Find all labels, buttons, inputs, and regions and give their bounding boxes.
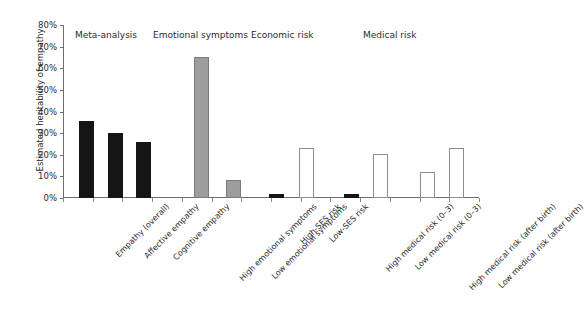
y-tick-label: 50% (38, 85, 57, 95)
bar (344, 194, 359, 198)
y-tick-label: 30% (38, 128, 57, 138)
y-tick (60, 155, 64, 156)
y-tick (60, 176, 64, 177)
y-tick (60, 68, 64, 69)
y-axis-title: Estimated heritability of empathy (35, 0, 45, 200)
bar (108, 133, 123, 198)
y-tick-label: 0% (44, 193, 58, 203)
bar (269, 194, 284, 198)
bar (373, 154, 388, 198)
y-tick-label: 60% (38, 63, 57, 73)
bar (449, 148, 464, 198)
y-tick-label: 70% (38, 42, 57, 52)
y-tick (60, 47, 64, 48)
group-header: Medical risk (363, 30, 416, 40)
plot-area: 0%10%20%30%40%50%60%70%80% (63, 25, 479, 198)
bar (79, 121, 94, 198)
bar (299, 148, 314, 198)
y-tick-label: 10% (38, 171, 57, 181)
bar (136, 142, 151, 198)
y-tick-label: 80% (38, 20, 57, 30)
group-header: Economic risk (251, 30, 314, 40)
group-header: Emotional symptoms (153, 30, 248, 40)
group-header: Meta-analysis (75, 30, 137, 40)
bar (420, 172, 435, 198)
bar (194, 57, 209, 198)
y-tick (60, 133, 64, 134)
y-tick (60, 25, 64, 26)
x-axis-label: Affective empathy (143, 202, 201, 260)
y-tick-label: 40% (38, 107, 57, 117)
bar (226, 180, 241, 198)
x-axis-label: Empathy (overall) (114, 202, 171, 259)
x-axis-label: Cognitive empathy (171, 202, 231, 262)
x-tick (479, 198, 480, 202)
y-tick (60, 112, 64, 113)
x-axis-labels: Empathy (overall)Affective empathyCognit… (63, 202, 479, 314)
y-tick (60, 90, 64, 91)
y-tick-label: 20% (38, 150, 57, 160)
